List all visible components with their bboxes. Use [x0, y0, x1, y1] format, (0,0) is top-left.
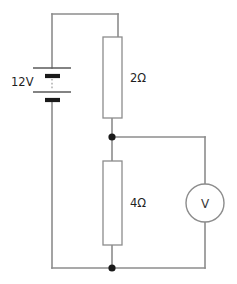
circuit-schematic-canvas: 12V 2Ω 4Ω V	[0, 0, 237, 284]
resistor-2ohm-label: 2Ω	[130, 71, 146, 85]
wiring	[52, 14, 205, 268]
junction-node-bottom	[108, 264, 115, 271]
battery-label: 12V	[11, 75, 34, 89]
resistor-2ohm-body	[103, 37, 122, 118]
resistor-4ohm-body	[103, 161, 122, 245]
battery-symbol	[33, 68, 71, 100]
resistor-4ohm-label: 4Ω	[130, 196, 146, 210]
voltmeter-label: V	[201, 197, 210, 211]
junction-node-middle	[108, 133, 115, 140]
circuit-diagram: 12V 2Ω 4Ω V	[0, 0, 237, 284]
